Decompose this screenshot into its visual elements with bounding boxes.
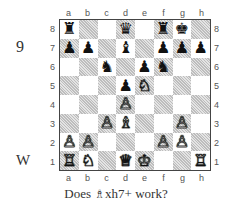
black-pawn-icon[interactable]: ♟: [156, 40, 170, 56]
square-d5[interactable]: ♟: [116, 76, 135, 95]
square-d3[interactable]: ♗: [116, 114, 135, 133]
square-f4[interactable]: [154, 95, 173, 114]
square-a5[interactable]: [60, 76, 79, 95]
black-knight-icon[interactable]: ♞: [156, 59, 170, 75]
square-a7[interactable]: ♟: [60, 39, 79, 58]
white-knight-icon[interactable]: ♘: [81, 153, 95, 169]
square-f8[interactable]: ♜: [154, 20, 173, 39]
square-b3[interactable]: [79, 114, 98, 133]
white-pawn-icon[interactable]: ♙: [62, 134, 76, 150]
square-g6[interactable]: [173, 58, 192, 77]
square-d8[interactable]: ♛: [116, 20, 135, 39]
square-a3[interactable]: [60, 114, 79, 133]
puzzle-number: 9: [16, 38, 24, 56]
black-pawn-icon[interactable]: ♟: [193, 40, 207, 56]
file-labels-bottom: a b c d e f g h: [59, 173, 211, 183]
black-pawn-icon[interactable]: ♟: [175, 40, 189, 56]
square-e1[interactable]: ♔: [135, 151, 154, 170]
square-d2[interactable]: [116, 133, 135, 152]
white-knight-icon[interactable]: ♘: [137, 78, 151, 94]
white-rook-icon[interactable]: ♖: [193, 153, 207, 169]
square-a6[interactable]: [60, 58, 79, 77]
square-g7[interactable]: ♟: [173, 39, 192, 58]
square-f5[interactable]: [154, 76, 173, 95]
black-knight-icon[interactable]: ♞: [100, 59, 114, 75]
square-c3[interactable]: ♙: [98, 114, 117, 133]
square-c2[interactable]: [98, 133, 117, 152]
square-e2[interactable]: [135, 133, 154, 152]
square-h6[interactable]: [191, 58, 210, 77]
square-g5[interactable]: [173, 76, 192, 95]
square-d1[interactable]: ♕: [116, 151, 135, 170]
square-d4[interactable]: ♙: [116, 95, 135, 114]
square-f1[interactable]: [154, 151, 173, 170]
black-queen-icon[interactable]: ♛: [118, 21, 132, 37]
white-pawn-icon[interactable]: ♙: [81, 134, 95, 150]
square-f2[interactable]: ♙: [154, 133, 173, 152]
square-c6[interactable]: ♞: [98, 58, 117, 77]
white-pawn-icon[interactable]: ♙: [118, 96, 132, 112]
square-a2[interactable]: ♙: [60, 133, 79, 152]
square-c1[interactable]: [98, 151, 117, 170]
square-a8[interactable]: ♜: [60, 20, 79, 39]
white-pawn-icon[interactable]: ♙: [100, 115, 114, 131]
square-g3[interactable]: ♙: [173, 114, 192, 133]
square-e6[interactable]: ♟: [135, 58, 154, 77]
black-rook-icon[interactable]: ♜: [62, 21, 76, 37]
square-h5[interactable]: [191, 76, 210, 95]
square-f7[interactable]: ♟: [154, 39, 173, 58]
white-queen-icon[interactable]: ♕: [118, 153, 132, 169]
square-g4[interactable]: [173, 95, 192, 114]
square-f3[interactable]: [154, 114, 173, 133]
square-e8[interactable]: [135, 20, 154, 39]
square-h4[interactable]: [191, 95, 210, 114]
square-h8[interactable]: [191, 20, 210, 39]
white-rook-icon[interactable]: ♖: [62, 153, 76, 169]
rank-label: 1: [50, 152, 55, 171]
square-h7[interactable]: ♟: [191, 39, 210, 58]
square-b6[interactable]: [79, 58, 98, 77]
file-label: d: [116, 8, 135, 18]
rank-label: 6: [50, 57, 55, 76]
white-pawn-icon[interactable]: ♙: [175, 115, 189, 131]
square-b5[interactable]: [79, 76, 98, 95]
white-pawn-icon[interactable]: ♙: [175, 134, 189, 150]
square-b4[interactable]: [79, 95, 98, 114]
square-e3[interactable]: [135, 114, 154, 133]
black-pawn-icon[interactable]: ♟: [62, 40, 76, 56]
square-f6[interactable]: ♞: [154, 58, 173, 77]
square-b1[interactable]: ♘: [79, 151, 98, 170]
square-h1[interactable]: ♖: [191, 151, 210, 170]
square-a1[interactable]: ♖: [60, 151, 79, 170]
square-e7[interactable]: [135, 39, 154, 58]
white-bishop-icon[interactable]: ♗: [118, 115, 132, 131]
square-b2[interactable]: ♙: [79, 133, 98, 152]
white-pawn-icon[interactable]: ♙: [156, 134, 170, 150]
square-a4[interactable]: [60, 95, 79, 114]
white-king-icon[interactable]: ♔: [137, 153, 151, 169]
square-c7[interactable]: [98, 39, 117, 58]
square-b7[interactable]: ♟: [79, 39, 98, 58]
square-g8[interactable]: ♚: [173, 20, 192, 39]
black-king-icon[interactable]: ♚: [175, 21, 189, 37]
black-pawn-icon[interactable]: ♟: [118, 78, 132, 94]
square-e5[interactable]: ♘: [135, 76, 154, 95]
square-g1[interactable]: [173, 151, 192, 170]
square-c5[interactable]: [98, 76, 117, 95]
square-c4[interactable]: [98, 95, 117, 114]
square-c8[interactable]: [98, 20, 117, 39]
square-h2[interactable]: [191, 133, 210, 152]
black-bishop-icon[interactable]: ♝: [118, 40, 132, 56]
square-e4[interactable]: [135, 95, 154, 114]
square-h3[interactable]: [191, 114, 210, 133]
black-rook-icon[interactable]: ♜: [156, 21, 170, 37]
rank-label: 2: [214, 133, 219, 152]
square-b8[interactable]: [79, 20, 98, 39]
black-pawn-icon[interactable]: ♟: [81, 40, 95, 56]
square-d6[interactable]: [116, 58, 135, 77]
file-labels-top: a b c d e f g h: [59, 8, 211, 18]
rank-labels-right: 8 7 6 5 4 3 2 1: [214, 19, 219, 171]
black-pawn-icon[interactable]: ♟: [137, 59, 151, 75]
square-g2[interactable]: ♙: [173, 133, 192, 152]
square-d7[interactable]: ♝: [116, 39, 135, 58]
